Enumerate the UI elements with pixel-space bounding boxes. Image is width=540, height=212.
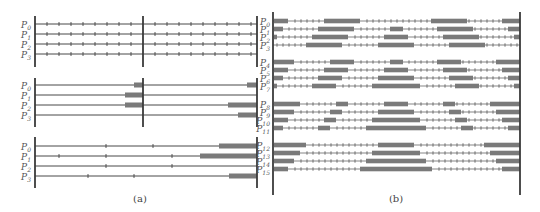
activity-bar xyxy=(372,84,420,89)
activity-bar xyxy=(437,27,473,32)
activity-bar xyxy=(274,27,283,32)
timeline-row: P5 xyxy=(259,66,520,77)
activity-bar xyxy=(312,35,348,40)
panel-a-group-0: P0P1P2P3 xyxy=(20,16,257,67)
activity-bar xyxy=(372,118,420,123)
activity-bar xyxy=(443,102,455,107)
timeline-row: P10 xyxy=(255,116,520,127)
activity-bar xyxy=(274,19,288,24)
timeline-row: P1 xyxy=(20,30,257,41)
activity-bar xyxy=(502,19,520,24)
timeline-row: P9 xyxy=(259,108,520,119)
activity-bar xyxy=(496,159,520,164)
activity-bar xyxy=(247,83,257,88)
activity-bar xyxy=(274,143,306,148)
activity-bar xyxy=(384,35,408,40)
timeline-row: P6 xyxy=(259,74,520,85)
timeline-row: P15 xyxy=(255,165,520,176)
timeline-row: P1 xyxy=(259,25,520,36)
activity-bar xyxy=(508,76,520,81)
timeline-row: P7 xyxy=(259,82,520,93)
activity-bar xyxy=(274,35,277,40)
activity-bar xyxy=(508,126,520,131)
activity-bar xyxy=(274,60,294,65)
timeline-row: P3 xyxy=(20,172,257,183)
activity-bar xyxy=(490,102,520,107)
activity-bar xyxy=(390,27,403,32)
process-label-a2-p3: P3 xyxy=(20,172,31,183)
activity-bar xyxy=(318,126,330,131)
activity-bar xyxy=(330,110,342,115)
activity-bar xyxy=(306,43,342,48)
activity-bar xyxy=(437,60,461,65)
activity-bar xyxy=(366,159,426,164)
activity-bar xyxy=(312,84,336,89)
activity-bar xyxy=(431,19,467,24)
timeline-row: P0 xyxy=(20,81,257,92)
activity-bar xyxy=(274,110,294,115)
activity-bar xyxy=(274,167,288,172)
timeline-row: P12 xyxy=(255,141,520,152)
timeline-row: P2 xyxy=(20,40,257,51)
activity-bar xyxy=(274,126,283,131)
activity-bar xyxy=(502,118,520,123)
timeline-row: P11 xyxy=(255,124,520,135)
caption-a: (a) xyxy=(133,193,147,204)
activity-bar xyxy=(378,76,414,81)
timeline-row: P13 xyxy=(255,149,520,160)
timeline-row: P3 xyxy=(259,41,520,52)
activity-bar xyxy=(200,154,257,159)
timeline-row: P0 xyxy=(20,142,257,153)
timeline-row: P0 xyxy=(259,17,520,28)
activity-bar xyxy=(455,84,479,89)
activity-bar xyxy=(238,113,257,118)
timeline-row: P1 xyxy=(20,91,257,102)
timeline-row: P4 xyxy=(259,58,520,69)
activity-bar xyxy=(274,84,277,89)
activity-bar xyxy=(384,102,408,107)
activity-bar xyxy=(449,76,473,81)
activity-bar xyxy=(229,174,257,179)
timeline-row: P0 xyxy=(20,20,257,31)
panel-b: P0P1P2P3P4P5P6P7P8P9P10P11P12P13P14P15 xyxy=(255,12,520,195)
activity-bar xyxy=(496,110,520,115)
activity-bar xyxy=(360,167,432,172)
activity-bar xyxy=(366,126,426,131)
activity-bar xyxy=(484,143,520,148)
timeline-row: P8 xyxy=(259,100,520,111)
activity-bar xyxy=(378,43,414,48)
activity-bar xyxy=(378,110,414,115)
activity-bar xyxy=(384,68,408,73)
panel-a-group-2: P0P1P2P3 xyxy=(20,137,257,188)
activity-bar xyxy=(508,27,520,32)
activity-bar xyxy=(274,76,283,81)
panel-a-group-1: P0P1P2P3 xyxy=(20,78,257,127)
activity-bar xyxy=(274,159,294,164)
activity-bar xyxy=(318,27,354,32)
activity-bar xyxy=(378,143,414,148)
activity-bar xyxy=(336,102,348,107)
activity-bar xyxy=(502,68,520,73)
activity-bar xyxy=(461,126,473,131)
activity-bar xyxy=(324,19,360,24)
activity-bar xyxy=(219,144,257,149)
activity-bar xyxy=(330,60,354,65)
activity-bar xyxy=(449,43,485,48)
process-label-a1-p3: P3 xyxy=(20,111,31,122)
activity-bar xyxy=(324,68,348,73)
activity-bar xyxy=(390,60,403,65)
activity-bar xyxy=(449,110,461,115)
activity-bar xyxy=(455,118,467,123)
activity-bar xyxy=(228,103,257,108)
activity-bar xyxy=(496,60,520,65)
activity-bar xyxy=(372,151,420,156)
figure: P0P1P2P3P0P1P2P3P0P1P2P3 P0P1P2P3P4P5P6P… xyxy=(0,0,540,212)
timeline-row: P2 xyxy=(20,162,257,173)
timeline-row: P3 xyxy=(20,111,257,122)
timeline-row: P2 xyxy=(20,101,257,112)
activity-bar xyxy=(125,103,143,108)
activity-bar xyxy=(324,118,336,123)
caption-b: (b) xyxy=(389,193,403,204)
activity-bar xyxy=(274,151,300,156)
activity-bar xyxy=(274,102,300,107)
